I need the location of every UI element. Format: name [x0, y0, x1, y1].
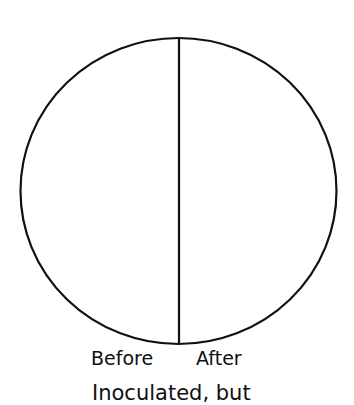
caption: Inoculated, but	[92, 381, 251, 405]
after-label: After	[196, 347, 242, 369]
divided-circle-diagram	[0, 0, 354, 405]
before-label: Before	[91, 347, 153, 369]
